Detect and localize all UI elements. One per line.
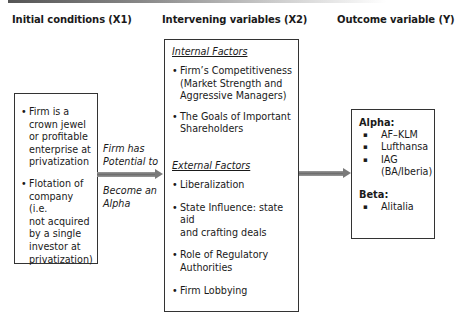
line: Firm Lobbying [180, 285, 294, 298]
line: enterprise at [29, 144, 93, 157]
list-item: Alitalia [359, 201, 431, 213]
line: The Goals of Important [180, 111, 294, 124]
external-factors-title: External Factors [172, 160, 294, 171]
line: Flotation of [29, 178, 93, 191]
beta-title: Beta: [359, 188, 431, 201]
initial-conditions-box: Firm is a crown jewel or profitable ente… [14, 93, 98, 264]
line: Alpha [103, 198, 157, 211]
list-item: State Influence: state aid and crafting … [172, 202, 294, 240]
line: Liberalization [180, 179, 294, 192]
arrow1-label-top: Firm has Potential to [103, 143, 158, 168]
alpha-list: AF–KLM Lufthansa IAG (BA/Iberia) [359, 129, 431, 179]
line: Potential to [103, 156, 158, 169]
line: AF–KLM [381, 129, 431, 141]
line: by a single [29, 228, 93, 241]
list-item: Lufthansa [359, 141, 431, 153]
list-item: Firm is a crown jewel or profitable ente… [21, 106, 93, 169]
line: crown jewel [29, 119, 93, 132]
list-item: IAG (BA/Iberia) [359, 154, 431, 179]
line: Alitalia [381, 201, 431, 213]
line: company (i.e. [29, 191, 93, 216]
line: or profitable [29, 131, 93, 144]
beta-group: Beta: Alitalia [359, 188, 431, 213]
initial-conditions-list: Firm is a crown jewel or profitable ente… [21, 106, 93, 266]
list-item: Role of Regulatory Authorities [172, 249, 294, 274]
line: investor at [29, 241, 93, 254]
line: Lufthansa [381, 141, 431, 153]
arrow-head-icon [343, 168, 351, 178]
list-item: Firm Lobbying [172, 285, 294, 298]
list-item: The Goals of Important Shareholders [172, 111, 294, 136]
line: Authorities [180, 262, 294, 275]
line: (BA/Iberia) [381, 166, 431, 178]
list-item: Flotation of company (i.e. not acquired … [21, 178, 93, 266]
list-item: Firm’s Competitiveness (Market Strength … [172, 65, 294, 103]
line: IAG [381, 154, 431, 166]
heading-initial-conditions: Initial conditions (X1) [12, 14, 132, 25]
heading-intervening-variables: Intervening variables (X2) [162, 14, 307, 25]
line: (Market Strength and [180, 78, 294, 91]
line: privatization [29, 156, 93, 169]
arrow-head-icon [155, 169, 163, 179]
external-factors-list: Liberalization State Influence: state ai… [172, 179, 294, 297]
list-item: AF–KLM [359, 129, 431, 141]
internal-factors-list: Firm’s Competitiveness (Market Strength … [172, 65, 294, 136]
line: Aggressive Managers) [180, 90, 294, 103]
outcome-variable-box: Alpha: AF–KLM Lufthansa IAG (BA/Iberia) … [351, 109, 435, 239]
alpha-title: Alpha: [359, 116, 431, 129]
arrow-x2-to-y [299, 171, 344, 176]
line: Firm has [103, 143, 158, 156]
line: Firm is a [29, 106, 93, 119]
line: Role of Regulatory [180, 249, 294, 262]
arrow1-label-bottom: Become an Alpha [103, 185, 157, 210]
beta-list: Alitalia [359, 201, 431, 213]
line: not acquired [29, 216, 93, 229]
line: Firm’s Competitiveness [180, 65, 294, 78]
list-item: Liberalization [172, 179, 294, 192]
line: State Influence: state aid [180, 202, 294, 227]
heading-outcome-variable: Outcome variable (Y) [337, 14, 455, 25]
alpha-group: Alpha: AF–KLM Lufthansa IAG (BA/Iberia) [359, 116, 431, 179]
intervening-variables-box: Internal Factors Firm’s Competitiveness … [164, 39, 299, 312]
internal-factors-title: Internal Factors [172, 46, 294, 57]
line: Become an [103, 185, 157, 198]
line: and crafting deals [180, 227, 294, 240]
top-rule [8, 0, 453, 3]
line: Shareholders [180, 123, 294, 136]
arrow-x1-to-x2 [97, 172, 155, 177]
line: privatization) [29, 254, 93, 267]
